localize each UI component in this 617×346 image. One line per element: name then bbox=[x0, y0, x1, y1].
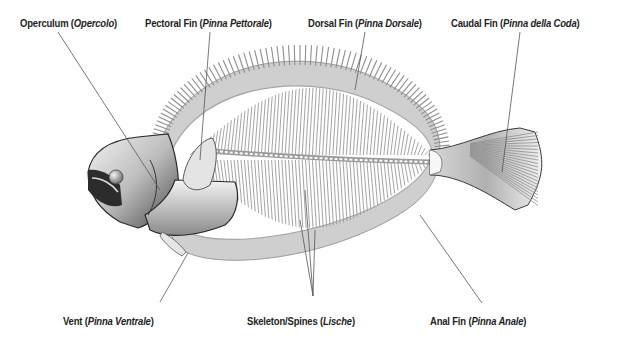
label-skeleton: Skeleton/Spines (Lische) bbox=[247, 315, 355, 327]
label-anal-fin: Anal Fin (Pinna Anale) bbox=[430, 315, 526, 327]
fish-illustration bbox=[0, 0, 617, 346]
label-dorsal-fin: Dorsal Fin (Pinna Dorsale) bbox=[308, 17, 422, 29]
label-operculum: Operculum (Opercolo) bbox=[20, 17, 117, 29]
flatfish-anatomy-diagram: Operculum (Opercolo) Pectoral Fin (Pinna… bbox=[0, 0, 617, 346]
label-caudal-fin: Caudal Fin (Pinna della Coda) bbox=[451, 17, 580, 29]
caudal-fin bbox=[430, 128, 542, 210]
label-vent: Vent (Pinna Ventrale) bbox=[63, 315, 154, 327]
label-pectoral-fin: Pectoral Fin (Pinna Pettorale) bbox=[145, 17, 272, 29]
